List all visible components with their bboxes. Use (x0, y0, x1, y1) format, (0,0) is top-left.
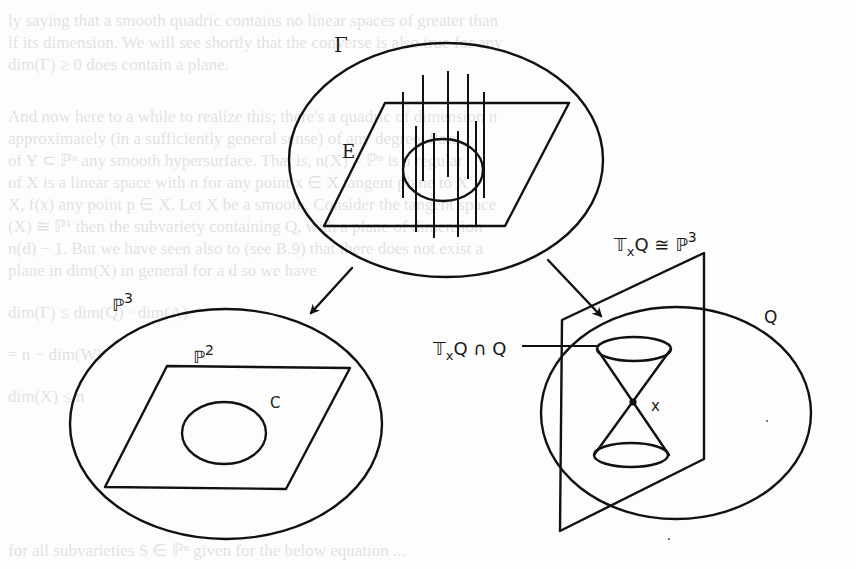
right-panel: 𝕋xQ ≅ ℙ3 𝕋xQ ∩ Q Q x (432, 229, 811, 531)
point-x-label: x (651, 397, 660, 415)
scan-speck (766, 420, 768, 422)
diagram-figure: Γ E ℙ3 ℙ2 C 𝕋xQ ≅ ℙ3 𝕋 (0, 0, 856, 569)
intersection-label: 𝕋xQ ∩ Q (432, 338, 506, 363)
tangent-space-label: 𝕋xQ ≅ ℙ3 (613, 229, 697, 259)
p2-label: ℙ2 (193, 342, 214, 367)
top-panel: Γ E (289, 33, 603, 277)
conic-c (182, 402, 266, 464)
plane-p2 (105, 366, 350, 489)
left-panel: ℙ3 ℙ2 C (70, 290, 382, 539)
scan-speck (668, 538, 670, 540)
quadric-q-label: Q (764, 307, 777, 327)
ruling-lines (403, 71, 484, 238)
arrow-to-left-panel (311, 268, 352, 313)
plane-e (324, 103, 569, 226)
p3-ellipse (70, 309, 382, 539)
cone-top-ellipse (597, 337, 671, 361)
quadric-q-ellipse (541, 307, 811, 519)
gamma-label: Γ (334, 33, 348, 57)
cone-bottom-ellipse (594, 443, 668, 467)
arrow-to-right-panel (548, 260, 601, 316)
gamma-ellipse (289, 43, 603, 277)
page: ly saying that a smooth quadric contains… (0, 0, 856, 569)
p3-label: ℙ3 (112, 290, 133, 315)
curve-c-label: C (270, 394, 280, 412)
point-x (629, 398, 636, 405)
plane-e-label: E (342, 141, 355, 162)
